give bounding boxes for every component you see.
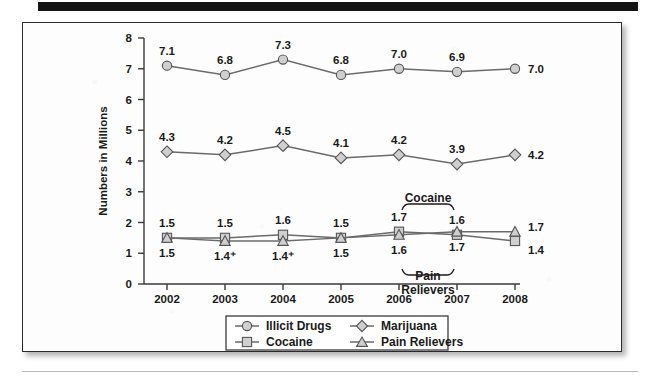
data-point-marker [219,149,231,161]
data-label-end: 4.2 [528,149,544,161]
annotation-cocaine: Cocaine [405,191,452,205]
circle-marker-icon [242,321,251,330]
y-tick-label: 1 [126,247,133,259]
data-point-marker [393,149,405,161]
data-point-marker [161,146,173,158]
data-point-marker [452,67,461,76]
square-marker-icon [242,337,251,346]
data-label: 4.3 [159,131,175,143]
legend-item-cocaine[interactable]: Cocaine [235,335,313,349]
data-label: 1.5 [333,217,350,229]
x-tick-label-2008: 2008 [502,293,528,305]
data-label: 1.6 [449,214,465,226]
data-label: 7.3 [275,39,291,51]
y-tick-label: 4 [126,155,133,167]
data-label: 1.5 [159,247,176,259]
y-tick-label: 0 [126,278,132,290]
y-tick-label: 6 [126,94,132,106]
data-label: 1.5 [159,217,176,229]
data-label: 1.7 [391,211,407,223]
y-axis-title: Numbers in Millions [97,106,109,215]
data-label-end: 7.0 [528,63,544,75]
data-point-marker [509,149,521,161]
line-chart-svg: 0 1 2 3 4 5 6 7 8 Numbers in Millions 20… [23,23,623,353]
legend-label: Cocaine [266,335,313,349]
data-label-end: 1.4 [528,244,545,256]
data-label: 6.9 [449,51,465,63]
chart-plot-area: 0 1 2 3 4 5 6 7 8 Numbers in Millions 20… [23,23,623,353]
legend-label: Pain Relievers [381,335,463,349]
data-point-marker [510,236,519,245]
x-axis-tick-labels: 2002 2003 2004 2005 2006 2007 2008 [154,293,528,305]
data-point-marker [220,70,229,79]
data-point-marker [277,140,289,152]
legend-item-marijuana[interactable]: Marijuana [350,319,437,333]
data-label: 4.1 [333,137,350,149]
data-point-marker [162,61,171,70]
annotation-group: Cocaine Pain Relievers [401,191,455,297]
y-tick-label: 5 [126,124,133,136]
data-label: 6.8 [217,54,234,66]
x-tick-marks [167,284,515,290]
x-tick-label-2004: 2004 [270,293,296,305]
data-label-layer: 7.16.87.36.87.06.97.04.34.24.54.14.23.94… [159,39,545,262]
data-label: 1.4⁺ [272,250,294,262]
data-label: 4.2 [217,134,233,146]
data-label: 1.6 [391,244,407,256]
page-header-bar [38,2,638,11]
data-label: 7.0 [391,48,407,60]
data-label: 1.7 [449,241,465,253]
chart-legend[interactable]: Illicit Drugs Cocaine Marijuana [226,316,463,350]
y-tick-label: 3 [126,186,132,198]
data-label: 1.4⁺ [214,250,236,262]
legend-label: Illicit Drugs [266,319,332,333]
data-label: 4.5 [275,125,292,137]
y-tick-marks [138,38,144,284]
page-footer-rule [22,371,638,372]
data-label: 3.9 [449,143,465,155]
y-tick-label: 2 [126,217,132,229]
data-point-marker [335,152,347,164]
data-point-marker [510,64,519,73]
y-tick-label: 7 [126,63,132,75]
data-label: 1.6 [275,214,291,226]
x-tick-label-2002: 2002 [154,293,180,305]
x-tick-label-2003: 2003 [212,293,238,305]
annotation-pain: Pain [415,269,440,283]
data-point-marker [394,64,403,73]
data-label: 7.1 [159,45,176,57]
data-label-end: 1.7 [528,221,544,233]
data-point-marker [278,55,287,64]
data-label: 1.5 [333,247,350,259]
data-label: 6.8 [333,54,350,66]
figure-container: 0 1 2 3 4 5 6 7 8 Numbers in Millions 20… [22,22,622,352]
data-label: 4.2 [391,134,407,146]
data-label: 1.5 [217,217,234,229]
legend-label: Marijuana [381,319,437,333]
data-point-marker [451,158,463,170]
y-axis-tick-labels: 0 1 2 3 4 5 6 7 8 [126,32,133,290]
annotation-relievers: Relievers [401,283,455,297]
x-tick-label-2005: 2005 [328,293,354,305]
y-tick-label: 8 [126,32,133,44]
data-point-marker [336,70,345,79]
